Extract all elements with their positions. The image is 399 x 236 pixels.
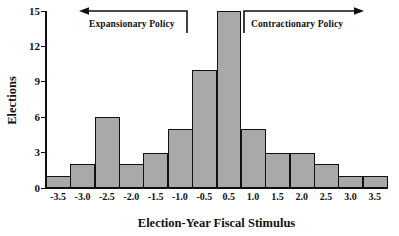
contractionary-policy-label: Contractionary Policy (251, 19, 343, 29)
histogram-bar (143, 153, 168, 188)
x-axis-tick-label: 1.5 (265, 191, 289, 203)
histogram-bar (265, 153, 290, 188)
x-axis-title: Election-Year Fiscal Stimulus (45, 216, 388, 231)
x-axis-tick-label: -2.0 (119, 191, 143, 203)
y-axis-tick-label: 15 (14, 6, 40, 17)
y-axis-tick (41, 188, 46, 189)
x-axis-tick-label: 1.0 (241, 191, 265, 203)
x-axis-tick-label: -1.5 (143, 191, 167, 203)
histogram-bar (70, 164, 95, 188)
histogram-bar (192, 70, 217, 188)
y-axis-tick (41, 11, 46, 12)
y-axis-tick (41, 152, 46, 153)
x-axis-tick-label: -0.5 (192, 191, 216, 203)
histogram-bar (119, 164, 144, 188)
y-axis-title: Elections (5, 56, 20, 146)
histogram-bar (314, 164, 339, 188)
y-axis-tick-label: 0 (14, 183, 40, 194)
histogram-bar (241, 129, 266, 188)
y-axis-tick (41, 81, 46, 82)
histogram-bar (46, 176, 71, 188)
histogram-bar (363, 176, 388, 188)
histogram-bar (290, 153, 315, 188)
x-axis-tick-label: -2.5 (95, 191, 119, 203)
x-axis-tick-label: 2.0 (290, 191, 314, 203)
histogram-figure: 03691215 -3.5-3.0-2.5-2.0-1.5-1.0-0.50.5… (0, 0, 399, 236)
x-axis-tick-labels: -3.5-3.0-2.5-2.0-1.5-1.0-0.50.51.01.52.0… (46, 191, 387, 207)
plot-area (46, 11, 387, 188)
histogram-bar (95, 117, 120, 188)
x-axis-tick-label: -3.5 (46, 191, 70, 203)
histogram-bar (168, 129, 193, 188)
y-axis-tick (41, 46, 46, 47)
histogram-bar (217, 11, 242, 188)
x-axis-tick-label: 2.5 (314, 191, 338, 203)
x-axis-tick-label: 0.5 (217, 191, 241, 203)
x-axis-tick-label: 3.0 (338, 191, 362, 203)
y-axis-tick-label: 12 (14, 41, 40, 52)
y-axis-tick-label: 3 (14, 147, 40, 158)
histogram-bar (338, 176, 363, 188)
y-axis-tick (41, 117, 46, 118)
x-axis-tick-label: -3.0 (70, 191, 94, 203)
x-axis-tick-label: -1.0 (168, 191, 192, 203)
expansionary-policy-label: Expansionary Policy (89, 19, 175, 29)
x-axis-tick-label: 3.5 (363, 191, 387, 203)
